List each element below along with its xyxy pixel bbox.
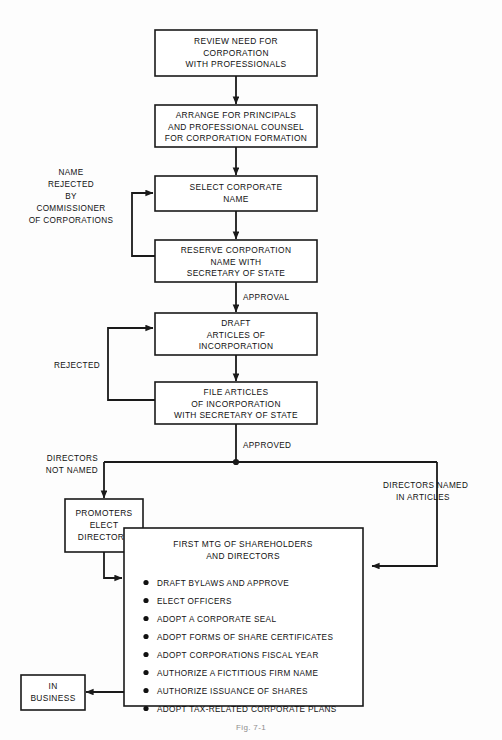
node-draft-articles-line-1: DRAFT xyxy=(221,318,251,328)
edge-label-directors-not-named-line-1: DIRECTORS xyxy=(47,454,98,463)
node-review-need[interactable]: REVIEW NEED FOR CORPORATION WITH PROFESS… xyxy=(155,30,317,76)
bullet-dot-icon xyxy=(143,688,148,693)
first-meeting-bullet-3: ADOPT A CORPORATE SEAL xyxy=(157,615,276,624)
first-meeting-bullet-5: ADOPT CORPORATIONS FISCAL YEAR xyxy=(157,651,319,660)
node-reserve-name-line-3: SECRETARY OF STATE xyxy=(187,268,286,278)
edge-bus-to-first-meeting-right xyxy=(372,462,437,566)
corporation-formation-flowchart: REVIEW NEED FOR CORPORATION WITH PROFESS… xyxy=(0,0,502,740)
node-first-meeting-heading-1: FIRST MTG OF SHAREHOLDERS xyxy=(173,539,312,549)
node-first-meeting[interactable]: FIRST MTG OF SHAREHOLDERS AND DIRECTORS … xyxy=(124,528,363,714)
bullet-dot-icon xyxy=(143,652,148,657)
node-promoters-elect-line-2: ELECT xyxy=(90,520,119,530)
first-meeting-bullet-1: DRAFT BYLAWS AND APPROVE xyxy=(157,579,289,588)
node-arrange-principals-line-1: ARRANGE FOR PRINCIPALS xyxy=(176,110,297,120)
node-review-need-line-3: WITH PROFESSIONALS xyxy=(186,59,287,69)
first-meeting-bullet-4: ADOPT FORMS OF SHARE CERTIFICATES xyxy=(157,633,333,642)
node-file-articles-line-3: WITH SECRETARY OF STATE xyxy=(174,410,298,420)
first-meeting-bullet-2: ELECT OFFICERS xyxy=(157,597,232,606)
figure-caption: Fig. 7-1 xyxy=(236,723,266,732)
node-file-articles-line-1: FILE ARTICLES xyxy=(204,387,269,397)
edge-label-name-rejected: NAME REJECTED BY COMMISSIONER OF CORPORA… xyxy=(29,168,114,225)
node-arrange-principals-line-3: FOR CORPORATION FORMATION xyxy=(165,133,307,143)
node-in-business[interactable]: IN BUSINESS xyxy=(21,675,85,710)
edge-promoters-to-first-meeting xyxy=(104,552,122,578)
edge-label-name-rejected-line-4: COMMISSIONER xyxy=(36,204,105,213)
bullet-dot-icon xyxy=(143,580,148,585)
node-reserve-name[interactable]: RESERVE CORPORATION NAME WITH SECRETARY … xyxy=(155,240,317,282)
flowchart-container: REVIEW NEED FOR CORPORATION WITH PROFESS… xyxy=(0,0,502,740)
node-in-business-line-1: IN xyxy=(48,681,57,691)
bullet-dot-icon xyxy=(143,670,148,675)
node-file-articles[interactable]: FILE ARTICLES OF INCORPORATION WITH SECR… xyxy=(155,382,317,424)
edge-label-approval: APPROVAL xyxy=(243,293,289,302)
node-review-need-line-2: CORPORATION xyxy=(203,48,269,58)
node-arrange-principals-line-2: AND PROFESSIONAL COUNSEL xyxy=(168,122,304,132)
junction-dot-approved xyxy=(233,459,239,465)
node-review-need-line-1: REVIEW NEED FOR xyxy=(194,36,278,46)
node-select-name[interactable]: SELECT CORPORATE NAME xyxy=(155,176,317,211)
edge-label-directors-not-named-line-2: NOT NAMED xyxy=(46,466,98,475)
edge-label-name-rejected-line-1: NAME xyxy=(58,168,83,177)
node-draft-articles[interactable]: DRAFT ARTICLES OF INCORPORATION xyxy=(155,313,317,355)
edge-label-directors-named-line-1: DIRECTORS NAMED xyxy=(383,481,468,490)
node-draft-articles-line-2: ARTICLES OF xyxy=(207,330,266,340)
node-select-name-line-2: NAME xyxy=(223,194,249,204)
edge-name-rejected-loop xyxy=(132,193,155,256)
edge-label-name-rejected-line-5: OF CORPORATIONS xyxy=(29,216,114,225)
node-arrange-principals[interactable]: ARRANGE FOR PRINCIPALS AND PROFESSIONAL … xyxy=(155,105,317,147)
edge-label-directors-named: DIRECTORS NAMED IN ARTICLES xyxy=(383,481,468,502)
bullet-dot-icon xyxy=(143,706,148,711)
edge-rejected-loop xyxy=(108,328,155,400)
first-meeting-bullet-6: AUTHORIZE A FICTITIOUS FIRM NAME xyxy=(157,669,318,678)
bullet-dot-icon xyxy=(143,598,148,603)
node-first-meeting-heading-2: AND DIRECTORS xyxy=(206,551,280,561)
edge-label-directors-not-named: DIRECTORS NOT NAMED xyxy=(46,454,98,475)
edge-label-name-rejected-line-3: BY xyxy=(65,192,77,201)
bullet-dot-icon xyxy=(143,616,148,621)
first-meeting-bullet-7: AUTHORIZE ISSUANCE OF SHARES xyxy=(157,687,308,696)
edge-label-rejected: REJECTED xyxy=(54,361,100,370)
bullet-dot-icon xyxy=(143,634,148,639)
first-meeting-bullet-8: ADOPT TAX-RELATED CORPORATE PLANS xyxy=(157,705,337,714)
node-reserve-name-line-1: RESERVE CORPORATION xyxy=(181,245,292,255)
node-draft-articles-line-3: INCORPORATION xyxy=(199,341,274,351)
node-promoters-elect-line-1: PROMOTERS xyxy=(75,508,132,518)
node-file-articles-line-2: OF INCORPORATION xyxy=(191,399,281,409)
node-reserve-name-line-2: NAME WITH xyxy=(210,257,261,267)
edge-label-directors-named-line-2: IN ARTICLES xyxy=(396,493,450,502)
node-select-name-line-1: SELECT CORPORATE xyxy=(190,182,283,192)
edge-label-name-rejected-line-2: REJECTED xyxy=(48,180,94,189)
edge-label-approved: APPROVED xyxy=(243,441,291,450)
node-in-business-line-2: BUSINESS xyxy=(30,693,75,703)
node-promoters-elect-line-3: DIRECTORS xyxy=(78,532,130,542)
